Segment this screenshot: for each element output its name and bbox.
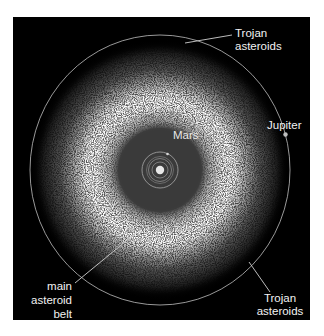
jupiter-label: Jupiter xyxy=(267,119,302,131)
mars-planet xyxy=(166,153,169,156)
main-belt-label-line1: main xyxy=(47,280,72,292)
jupiter-planet xyxy=(283,132,287,136)
sun xyxy=(156,166,164,174)
asteroid-belt-diagram: Trojan asteroids Jupiter Mars main aster… xyxy=(0,0,324,336)
trojan-top-label-line1: Trojan xyxy=(235,27,267,39)
main-belt-label-line3: belt xyxy=(53,308,72,320)
trojan-bottom-label-line1: Trojan xyxy=(264,292,296,304)
trojan-bottom-label-line2: asteroids xyxy=(257,305,304,317)
trojan-top-label-line2: asteroids xyxy=(235,40,282,52)
mars-label: Mars xyxy=(173,129,199,141)
main-belt-label-line2: asteroid xyxy=(31,294,72,306)
